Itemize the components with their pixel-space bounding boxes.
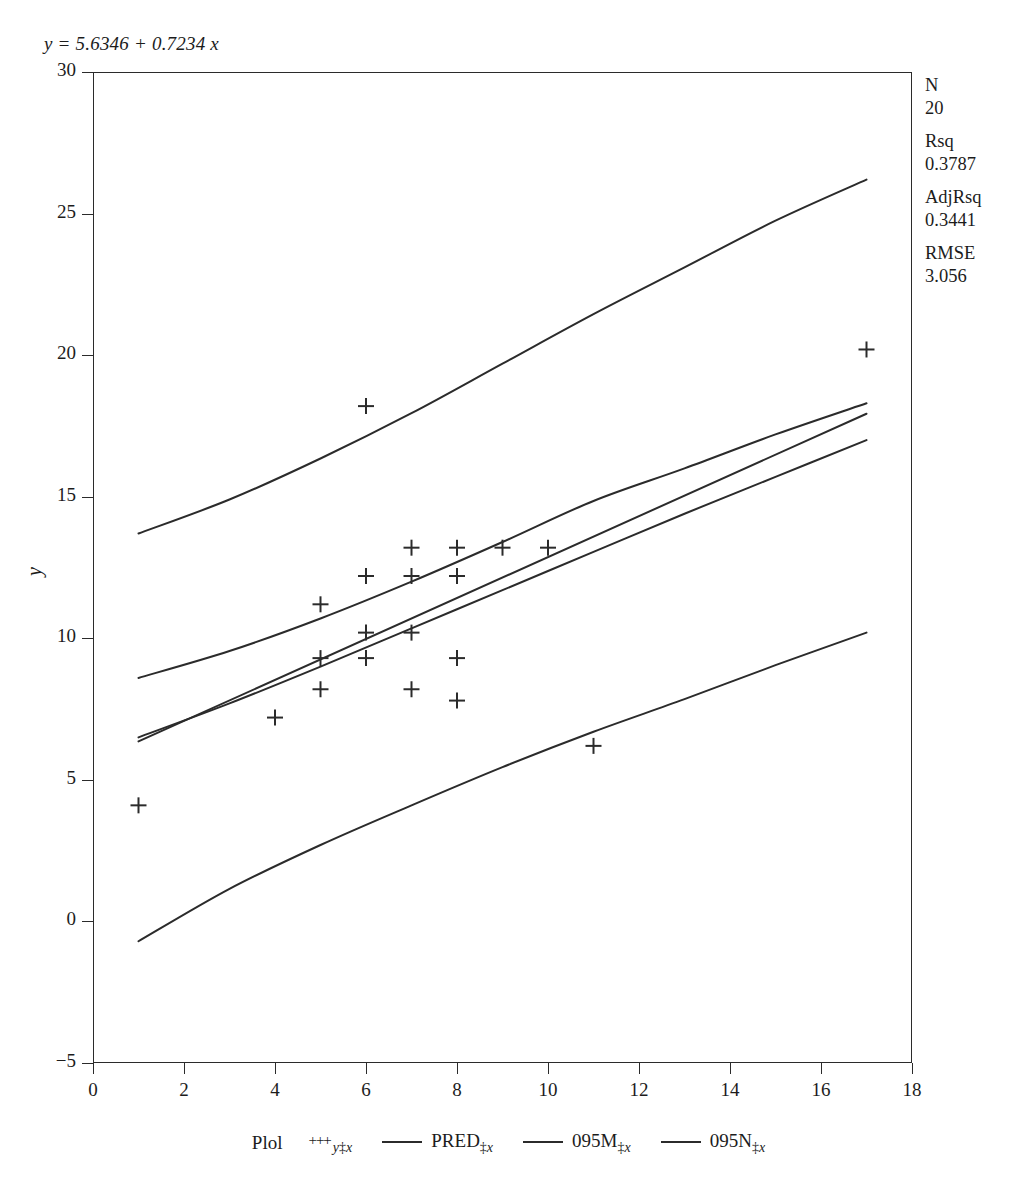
x-tick-label: 18 (892, 1079, 932, 1101)
x-tick-label: 14 (710, 1079, 750, 1101)
x-tick-mark (93, 1063, 94, 1074)
legend-item-label: y‡x (333, 1130, 352, 1156)
y-tick-label: 15 (18, 484, 76, 506)
data-point (358, 568, 374, 584)
x-tick-mark (184, 1063, 185, 1074)
y-tick-label: 30 (18, 59, 76, 81)
legend-item-pred: PRED‡x (382, 1130, 493, 1156)
data-point (313, 596, 329, 612)
y-tick-mark (82, 214, 93, 215)
data-point (358, 650, 374, 666)
x-tick-mark (548, 1063, 549, 1074)
stat-rsq-label: Rsq (925, 130, 1017, 153)
y-tick-mark (82, 497, 93, 498)
y-tick-mark (82, 1063, 93, 1064)
stat-rsq-value: 0.3787 (925, 153, 1017, 176)
legend-item-label: PRED‡x (431, 1130, 493, 1156)
y-tick-mark (82, 638, 93, 639)
regression-plot-page: y = 5.6346 + 0.7234 x N 20 Rsq 0.3787 Ad… (0, 0, 1017, 1195)
data-point (859, 341, 875, 357)
plot-legend: Plol +++y‡xPRED‡x095M‡x095N‡x (0, 1130, 1017, 1156)
stat-rsq: Rsq 0.3787 (925, 130, 1017, 175)
stat-n: N 20 (925, 74, 1017, 119)
y-tick-label: 10 (18, 625, 76, 647)
x-tick-label: 10 (528, 1079, 568, 1101)
legend-item-095n: 095N‡x (661, 1130, 765, 1156)
legend-item-label: 095M‡x (572, 1130, 631, 1156)
x-tick-mark (912, 1063, 913, 1074)
data-point (495, 540, 511, 556)
x-tick-mark (821, 1063, 822, 1074)
data-point (404, 540, 420, 556)
data-point (404, 681, 420, 697)
data-point (449, 568, 465, 584)
data-point (449, 650, 465, 666)
x-tick-mark (730, 1063, 731, 1074)
data-point (449, 693, 465, 709)
legend-line-swatch-icon (382, 1141, 422, 1143)
x-tick-label: 12 (619, 1079, 659, 1101)
legend-item-095m: 095M‡x (523, 1130, 631, 1156)
y-tick-label: 25 (18, 201, 76, 223)
y-tick-mark (82, 780, 93, 781)
x-tick-label: 2 (164, 1079, 204, 1101)
x-tick-label: 0 (73, 1079, 113, 1101)
y-tick-label: 5 (18, 767, 76, 789)
y-tick-label: 0 (18, 908, 76, 930)
data-point (404, 568, 420, 584)
stat-adjrsq-value: 0.3441 (925, 209, 1017, 232)
x-tick-label: 16 (801, 1079, 841, 1101)
regression-equation-caption: y = 5.6346 + 0.7234 x (44, 33, 219, 55)
series-line-095n-lower (139, 633, 867, 942)
stat-rmse: RMSE 3.056 (925, 242, 1017, 287)
x-tick-mark (275, 1063, 276, 1074)
stat-n-label: N (925, 74, 1017, 97)
data-point (540, 540, 556, 556)
y-tick-mark (82, 72, 93, 73)
stat-adjrsq: AdjRsq 0.3441 (925, 186, 1017, 231)
x-tick-mark (639, 1063, 640, 1074)
legend-line-swatch-icon (523, 1141, 563, 1143)
data-point (131, 797, 147, 813)
stat-n-value: 20 (925, 97, 1017, 120)
data-point (313, 681, 329, 697)
legend-title: Plol (252, 1132, 283, 1154)
legend-item-label: 095N‡x (710, 1130, 765, 1156)
statistics-panel: N 20 Rsq 0.3787 AdjRsq 0.3441 RMSE 3.056 (925, 74, 1017, 299)
stat-rmse-value: 3.056 (925, 265, 1017, 288)
x-tick-label: 6 (346, 1079, 386, 1101)
plot-canvas (93, 72, 912, 1063)
x-tick-label: 4 (255, 1079, 295, 1101)
stat-rmse-label: RMSE (925, 242, 1017, 265)
x-tick-label: 8 (437, 1079, 477, 1101)
y-tick-label: 20 (18, 342, 76, 364)
series-line-pred (139, 414, 867, 742)
legend-plus-marker-icon: +++ (308, 1132, 330, 1149)
y-tick-label: −5 (18, 1050, 76, 1072)
legend-item-y: +++y‡x (308, 1130, 352, 1156)
x-tick-mark (366, 1063, 367, 1074)
series-line-095n-upper (139, 180, 867, 534)
y-axis-title: y (23, 567, 46, 576)
legend-line-swatch-icon (661, 1141, 701, 1143)
data-point (358, 625, 374, 641)
x-tick-mark (457, 1063, 458, 1074)
y-tick-mark (82, 355, 93, 356)
data-point (267, 710, 283, 726)
data-point (449, 540, 465, 556)
stat-adjrsq-label: AdjRsq (925, 186, 1017, 209)
data-point (358, 398, 374, 414)
data-point (586, 738, 602, 754)
y-tick-mark (82, 921, 93, 922)
